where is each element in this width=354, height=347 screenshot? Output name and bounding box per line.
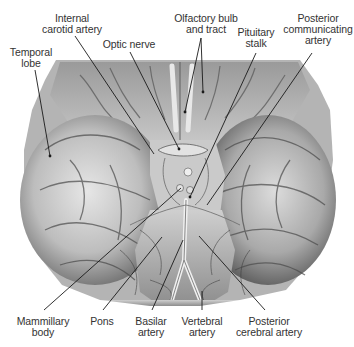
leader-optic-nerve bbox=[130, 52, 179, 149]
label-temporal-lobe: Temporal lobe bbox=[8, 47, 54, 69]
leader-pons bbox=[103, 237, 162, 310]
label-pituitary-stalk: Pituitary stalk bbox=[228, 27, 284, 49]
label-optic-nerve: Optic nerve bbox=[96, 39, 162, 50]
leader-basilar-artery bbox=[152, 240, 183, 310]
leader-posterior-communicating-artery bbox=[207, 53, 312, 205]
label-pons: Pons bbox=[82, 316, 122, 327]
label-mammillary-body: Mammillary body bbox=[12, 316, 74, 338]
label-posterior-communicating-artery: Posterior communicating artery bbox=[282, 13, 354, 46]
label-vertebral-artery: Vertebral artery bbox=[176, 316, 228, 338]
leader-olfactory-b bbox=[185, 38, 201, 112]
leader-temporal-lobe bbox=[35, 70, 50, 156]
leader-olfactory-a bbox=[201, 38, 203, 92]
label-posterior-cerebral-artery: Posterior cerebral artery bbox=[228, 316, 310, 338]
label-internal-carotid-artery: Internal carotid artery bbox=[37, 13, 107, 35]
leader-internal-carotid-artery bbox=[75, 36, 154, 154]
leader-pituitary-stalk bbox=[190, 53, 256, 197]
label-basilar-artery: Basilar artery bbox=[128, 316, 174, 338]
leader-posterior-cerebral-artery bbox=[199, 236, 265, 310]
